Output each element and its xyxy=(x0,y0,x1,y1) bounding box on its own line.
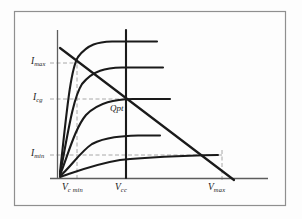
construction-lines xyxy=(50,58,222,181)
x-label-v-cc: Vcc xyxy=(115,183,127,193)
y-label-i-max-sub: max xyxy=(34,60,45,67)
characteristic-curve-1 xyxy=(60,42,157,173)
characteristic-curve-4 xyxy=(60,136,160,177)
y-label-i-min: Imin xyxy=(31,149,45,159)
y-label-i-cg-sub: cg xyxy=(36,96,43,103)
characteristic-curve-chart xyxy=(0,0,302,219)
x-label-v-max-base: V xyxy=(208,182,214,192)
x-label-v-c-min-base: V xyxy=(62,182,68,192)
characteristic-curve-5 xyxy=(60,155,218,177)
figure-root: Imax Icg Imin Vc min Vcc Vmax Qpt xyxy=(0,0,302,219)
x-label-v-cc-sub: cc xyxy=(121,186,127,193)
y-label-i-min-sub: min xyxy=(34,152,44,159)
x-label-v-c-min-sub: c min xyxy=(68,186,83,193)
y-label-i-max: Imax xyxy=(31,57,46,67)
q-point-marker xyxy=(125,98,127,100)
q-point-label: Qpt xyxy=(110,104,124,113)
x-label-v-cc-base: V xyxy=(115,182,121,192)
x-label-v-c-min: Vc min xyxy=(62,183,83,193)
x-label-v-max-sub: max xyxy=(214,186,225,193)
x-label-v-max: Vmax xyxy=(208,183,225,193)
y-label-i-cg: Icg xyxy=(33,93,43,103)
